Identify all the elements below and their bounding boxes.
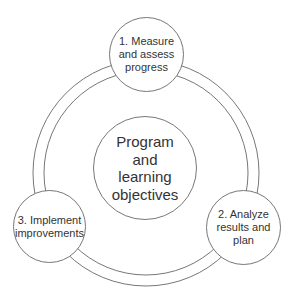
step-2-label: 2. Analyze results and plan: [217, 208, 271, 247]
step-3-node: 3. Implement improvements: [13, 190, 86, 263]
step-1-label: 1. Measure and assess progress: [119, 35, 175, 74]
step-3-label: 3. Implement improvements: [15, 214, 84, 240]
center-node: Program and learning objectives: [93, 116, 197, 220]
step-2-node: 2. Analyze results and plan: [206, 190, 281, 265]
step-1-node: 1. Measure and assess progress: [109, 17, 184, 92]
center-label: Program and learning objectives: [112, 133, 179, 203]
